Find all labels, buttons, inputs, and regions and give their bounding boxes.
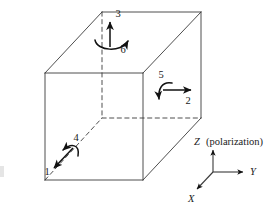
axis-label-z-paren: (polarization) [206, 136, 264, 148]
annotation-group-top: 3 6 [95, 8, 128, 55]
axis-label-x: X [187, 193, 195, 204]
scan-artifact [0, 166, 4, 177]
arrow-1-shaft [54, 148, 73, 168]
annotation-label-4: 4 [73, 132, 79, 143]
edge-top-right-diagonal [143, 12, 201, 73]
axis-x-arrow [197, 172, 213, 189]
annotation-label-1: 1 [44, 166, 49, 177]
hidden-edge-bottom-left-diagonal [45, 118, 102, 180]
annotation-label-6: 6 [120, 44, 125, 55]
axis-triad: Z (polarization) Y X [187, 136, 264, 204]
piezoelectric-axis-diagram: 3 6 5 2 4 1 Z (polarization) Y [0, 0, 270, 209]
annotation-label-5: 5 [158, 69, 163, 80]
annotation-label-3: 3 [115, 8, 120, 19]
diagram-canvas: 3 6 5 2 4 1 Z (polarization) Y [0, 0, 270, 209]
cube-wireframe [45, 12, 201, 180]
axis-label-z: Z (polarization) [194, 136, 264, 148]
annotation-group-right: 5 2 [158, 69, 191, 106]
edge-bottom-right-diagonal [143, 118, 201, 180]
edge-top-left-diagonal [45, 12, 102, 73]
axis-label-z-symbol: Z [194, 136, 200, 147]
annotation-label-2: 2 [185, 95, 190, 106]
axis-label-y: Y [250, 166, 257, 177]
annotation-group-bottom: 4 1 [44, 132, 79, 177]
arrow-5-curve [159, 83, 172, 99]
